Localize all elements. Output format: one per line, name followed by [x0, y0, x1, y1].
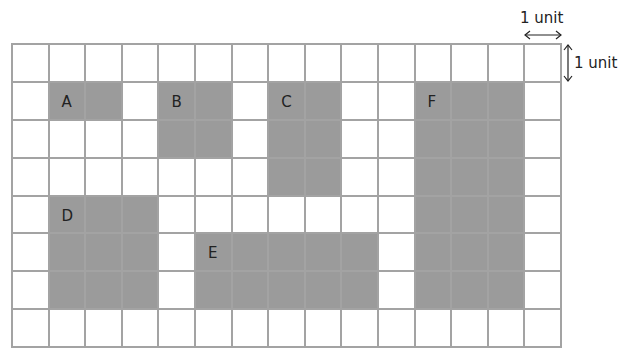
shape-label-f: F: [428, 93, 437, 111]
grid-line-horizontal: [11, 195, 562, 197]
shape-label-b: B: [171, 93, 181, 111]
grid-line-horizontal: [11, 43, 562, 45]
grid-line-horizontal: [11, 270, 562, 272]
grid-line-horizontal: [11, 119, 562, 121]
vertical-unit-label: 1 unit: [574, 54, 617, 72]
shape-label-d: D: [62, 207, 74, 225]
grid-line-horizontal: [11, 81, 562, 83]
vertical-double-arrow-icon: [563, 44, 573, 82]
horizontal-double-arrow-icon: [524, 30, 562, 40]
shape-label-a: A: [62, 93, 72, 111]
shape-label-e: E: [208, 244, 217, 262]
horizontal-unit-label: 1 unit: [520, 9, 563, 27]
grid-line-horizontal: [11, 346, 562, 348]
grid-line-horizontal: [11, 308, 562, 310]
unit-grid: ABCDEF: [12, 44, 561, 347]
grid-line-horizontal: [11, 232, 562, 234]
grid-line-horizontal: [11, 157, 562, 159]
shape-label-c: C: [281, 93, 291, 111]
